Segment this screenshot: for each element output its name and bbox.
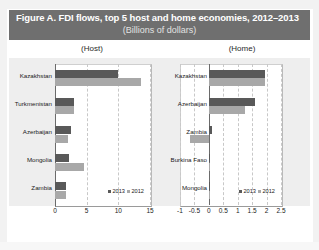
- x-tick-label-host: 0: [44, 207, 66, 214]
- bar-home-burkina-faso-2013: [209, 154, 210, 162]
- figure-title-band: Figure A. FDI flows, top 5 host and home…: [9, 10, 310, 40]
- bar-host-turkmenistan-2013: [55, 98, 74, 106]
- legend-swatch-2013: [108, 190, 111, 193]
- page-edge-right: [313, 0, 319, 250]
- legend-swatch-2013: [239, 190, 242, 193]
- category-label-host: Azerbaijan: [0, 128, 52, 136]
- category-label-host: Mongolia: [0, 156, 52, 164]
- legend-label-2013: 2013: [113, 188, 125, 194]
- bar-home-mongolia-2013: [209, 182, 210, 190]
- figure-container: Figure A. FDI flows, top 5 host and home…: [0, 0, 319, 250]
- x-tick-label-host: 5: [76, 207, 98, 214]
- panel-caption-host: (Host): [62, 44, 122, 53]
- legend-home: 20132012: [237, 188, 275, 194]
- bar-host-zambia-2012: [55, 191, 66, 199]
- gridline-home: [267, 64, 268, 205]
- bar-host-azerbaijan-2013: [55, 126, 71, 134]
- legend-swatch-2012: [258, 190, 261, 193]
- bar-host-azerbaijan-2012: [55, 135, 68, 143]
- legend-label-2012: 2012: [131, 188, 143, 194]
- page-edge-bottom: [0, 242, 319, 250]
- bar-host-kazakhstan-2013: [55, 70, 118, 78]
- legend-swatch-2012: [127, 190, 130, 193]
- category-label-home: Burkina Faso: [147, 156, 207, 164]
- bar-host-mongolia-2013: [55, 154, 69, 162]
- category-label-home: Zambia: [147, 128, 207, 136]
- x-tick-label-host: 15: [139, 207, 161, 214]
- panel-caption-home: (Home): [212, 44, 272, 53]
- bar-host-zambia-2013: [55, 182, 66, 190]
- category-label-home: Mongolia: [147, 184, 207, 192]
- bar-home-kazakhstan-2013: [209, 70, 265, 78]
- bar-home-burkina-faso-2012: [209, 163, 210, 171]
- legend-label-2012: 2012: [262, 188, 274, 194]
- figure-subtitle: (Billions of dollars): [9, 25, 310, 35]
- page-edge-left: [0, 0, 7, 250]
- bar-home-zambia-2013: [209, 126, 212, 134]
- category-label-home: Kazakhstan: [147, 72, 207, 80]
- gridline-home: [281, 64, 282, 205]
- bar-host-kazakhstan-2012: [55, 78, 141, 86]
- category-label-host: Kazakhstan: [0, 72, 52, 80]
- category-label-host: Turkmenistan: [0, 100, 52, 108]
- figure-title: Figure A. FDI flows, top 5 host and home…: [16, 12, 306, 23]
- legend-label-2013: 2013: [244, 188, 256, 194]
- bar-home-mongolia-2012: [209, 191, 210, 199]
- category-label-host: Zambia: [0, 184, 52, 192]
- bar-home-azerbaijan-2012: [209, 106, 245, 114]
- legend-host: 20132012: [106, 188, 144, 194]
- category-label-home: Azerbaijan: [147, 100, 207, 108]
- bar-host-turkmenistan-2012: [55, 106, 74, 114]
- bar-home-kazakhstan-2012: [209, 78, 265, 86]
- x-tick-label-host: 10: [107, 207, 129, 214]
- bar-home-azerbaijan-2013: [209, 98, 255, 106]
- page-edge-top: [0, 0, 319, 9]
- bar-host-mongolia-2012: [55, 163, 84, 171]
- x-tick-label-home: 2.5: [270, 207, 292, 214]
